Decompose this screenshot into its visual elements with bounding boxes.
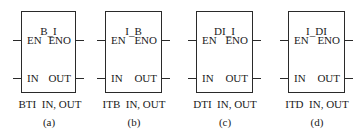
en-wire: [280, 40, 288, 41]
instruction-caption: BTI IN, OUT: [5, 98, 95, 110]
operands: IN, OUT: [126, 98, 166, 110]
en-wire: [188, 40, 196, 41]
pin-eno: ENO: [225, 34, 248, 46]
instruction-caption: ITB IN, OUT: [89, 98, 179, 110]
in-wire: [13, 78, 21, 79]
pin-out: OUT: [317, 72, 340, 84]
mnemonic: ITB: [103, 98, 121, 110]
pin-en: EN: [202, 34, 217, 46]
pin-in: IN: [111, 72, 123, 84]
pin-eno: ENO: [134, 34, 157, 46]
out-wire: [345, 78, 353, 79]
pin-in: IN: [202, 72, 214, 84]
function-block-b-i: B_I EN ENO IN OUT BTI IN, OUT (a): [13, 0, 85, 136]
subfigure-label: (d): [280, 116, 354, 128]
block-box: DI_I EN ENO IN OUT: [196, 11, 253, 93]
pin-out: OUT: [134, 72, 157, 84]
in-wire: [97, 78, 105, 79]
function-block-i-b: I_B EN ENO IN OUT ITB IN, OUT (b): [97, 0, 171, 136]
pin-out: OUT: [225, 72, 248, 84]
mnemonic: ITD: [285, 98, 303, 110]
block-box: I_DI EN ENO IN OUT: [288, 11, 345, 93]
pin-eno: ENO: [48, 34, 71, 46]
block-box: B_I EN ENO IN OUT: [21, 11, 76, 93]
pin-out: OUT: [48, 72, 71, 84]
eno-wire: [76, 40, 84, 41]
block-box: I_B EN ENO IN OUT: [105, 11, 162, 93]
pin-eno: ENO: [317, 34, 340, 46]
pin-en: EN: [27, 34, 42, 46]
instruction-caption: DTI IN, OUT: [180, 98, 270, 110]
out-wire: [76, 78, 84, 79]
subfigure-label: (a): [13, 116, 85, 128]
pin-in: IN: [27, 72, 39, 84]
function-block-i-di: I_DI EN ENO IN OUT ITD IN, OUT (d): [280, 0, 354, 136]
pin-in: IN: [294, 72, 306, 84]
in-wire: [280, 78, 288, 79]
eno-wire: [345, 40, 353, 41]
instruction-caption: ITD IN, OUT: [272, 98, 362, 110]
function-block-di-i: DI_I EN ENO IN OUT DTI IN, OUT (c): [188, 0, 262, 136]
en-wire: [13, 40, 21, 41]
pin-en: EN: [111, 34, 126, 46]
operands: IN, OUT: [42, 98, 82, 110]
eno-wire: [162, 40, 170, 41]
operands: IN, OUT: [217, 98, 257, 110]
en-wire: [97, 40, 105, 41]
in-wire: [188, 78, 196, 79]
out-wire: [162, 78, 170, 79]
subfigure-label: (b): [97, 116, 171, 128]
out-wire: [253, 78, 261, 79]
subfigure-label: (c): [188, 116, 262, 128]
eno-wire: [253, 40, 261, 41]
mnemonic: DTI: [193, 98, 211, 110]
pin-en: EN: [294, 34, 309, 46]
mnemonic: BTI: [19, 98, 37, 110]
operands: IN, OUT: [309, 98, 349, 110]
